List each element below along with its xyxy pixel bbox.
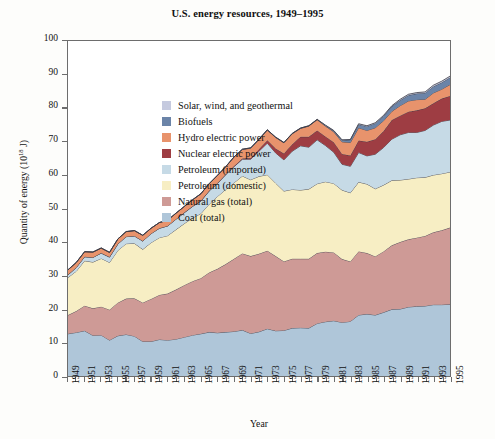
x-tick-mark [84,377,85,382]
legend-item-label: Coal (total) [178,212,225,223]
y-tick-label: 70 [49,134,59,144]
x-tick-mark [418,377,419,382]
legend-item-label: Petroleum (domestic) [178,180,266,191]
y-tick-label: 40 [49,235,59,245]
legend-item-label: Biofuels [178,116,213,127]
x-tick-mark [234,377,235,382]
y-tick: 50 [0,209,67,210]
legend-item-label: Solar, wind, and geothermal [178,100,293,111]
x-tick-mark [334,377,335,382]
plot-area: Solar, wind, and geothermalBiofuelsHydro… [67,40,451,377]
legend-item: Natural gas (total) [162,194,293,210]
x-tick-mark [184,377,185,382]
y-tick-label: 0 [53,370,58,380]
y-tick-label: 100 [44,33,58,43]
legend-item: Nuclear electric power [162,145,293,161]
y-tick: 30 [0,276,67,277]
y-tick-label: 50 [49,202,59,212]
x-tick-label: 1977 [304,365,314,384]
y-tick: 100 [0,40,67,41]
x-tick-label: 1973 [271,365,281,384]
legend-item-label: Nuclear electric power [178,148,271,159]
x-tick-mark [384,377,385,382]
legend-item-label: Hydro electric power [178,132,265,143]
x-tick-label: 1975 [288,365,298,384]
y-axis-label: Quantity of energy (1018 J) [17,77,29,307]
y-tick-label: 90 [49,67,59,77]
x-tick-mark [451,377,452,382]
x-tick-mark [201,377,202,382]
legend-item: Solar, wind, and geothermal [162,97,293,113]
x-tick-label: 1969 [238,365,248,384]
legend-item: Hydro electric power [162,129,293,145]
x-tick-label: 1965 [204,365,214,384]
y-tick-label: 80 [49,100,59,110]
legend-swatch [162,133,171,142]
x-tick-mark [117,377,118,382]
y-axis: 0102030405060708090100 [0,40,67,377]
y-tick: 80 [0,107,67,108]
legend-item-label: Petroleum (imported) [178,164,266,175]
x-tick-mark [267,377,268,382]
y-tick: 40 [0,242,67,243]
legend-item: Coal (total) [162,210,293,226]
x-tick-label: 1985 [371,365,381,384]
legend-item: Petroleum (imported) [162,161,293,177]
x-axis-label: Year [67,418,451,429]
x-tick-label: 1961 [171,365,181,384]
x-tick-label: 1951 [87,365,97,384]
x-tick-label: 1963 [187,365,197,384]
legend-swatch [162,165,171,174]
legend-swatch [162,181,171,190]
x-tick-label: 1955 [121,365,131,384]
x-tick-mark [368,377,369,382]
x-tick-mark [167,377,168,382]
page-title: U.S. energy resources, 1949–1995 [0,8,495,19]
y-tick-label: 30 [49,269,59,279]
x-tick-mark [434,377,435,382]
y-tick-label: 10 [49,336,59,346]
x-tick-label: 1959 [154,365,164,384]
x-tick-mark [401,377,402,382]
x-tick-label: 1979 [321,365,331,384]
y-axis-label-tail: J) [18,140,29,149]
x-tick-mark [284,377,285,382]
y-tick: 70 [0,141,67,142]
legend-item: Petroleum (domestic) [162,177,293,193]
x-tick-mark [150,377,151,382]
y-axis-label-exponent: 18 [17,149,24,156]
y-tick-label: 60 [49,168,59,178]
x-tick-mark [100,377,101,382]
x-tick-label: 1991 [421,365,431,384]
x-tick-mark [251,377,252,382]
x-tick-label: 1987 [388,365,398,384]
y-tick: 10 [0,343,67,344]
legend-swatch [162,117,171,126]
y-axis-label-text: Quantity of energy (10 [18,156,29,244]
x-tick-label: 1971 [254,365,264,384]
x-tick-mark [67,377,68,382]
legend-swatch [162,213,171,222]
legend-item-label: Natural gas (total) [178,196,252,207]
legend-swatch [162,149,171,158]
legend: Solar, wind, and geothermalBiofuelsHydro… [162,97,293,226]
y-tick: 60 [0,175,67,176]
x-tick-mark [351,377,352,382]
x-tick-mark [301,377,302,382]
y-tick: 0 [0,377,67,378]
x-tick-label: 1993 [438,365,448,384]
x-tick-label: 1983 [354,365,364,384]
x-tick-label: 1953 [104,365,114,384]
x-tick-mark [134,377,135,382]
y-tick: 90 [0,74,67,75]
x-tick-label: 1967 [221,365,231,384]
x-tick-label: 1949 [71,365,81,384]
legend-swatch [162,101,171,110]
x-tick-label: 1989 [405,365,415,384]
x-tick-label: 1995 [455,365,465,384]
x-tick-mark [317,377,318,382]
x-tick-label: 1957 [137,365,147,384]
x-axis: 1949195119531955195719591961196319651967… [67,377,451,439]
y-tick: 20 [0,310,67,311]
x-tick-label: 1981 [338,365,348,384]
